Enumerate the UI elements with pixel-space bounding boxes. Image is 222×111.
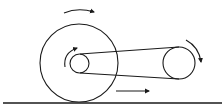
belt-top [80,47,179,54]
belt-drive-diagram [0,0,222,111]
right-pulley-rotation-arrow-icon [186,40,201,62]
right-pulley [163,47,195,79]
large-wheel [40,24,118,102]
belt-bottom [80,73,179,79]
small-pulley [70,54,89,73]
large-wheel-rotation-arrow-icon [64,10,94,13]
small-pulley-rotation-arrow-icon [65,48,77,67]
